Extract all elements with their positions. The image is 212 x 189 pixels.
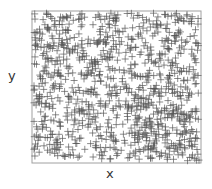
scatter-plot <box>0 0 212 189</box>
y-axis-label: y <box>8 68 16 83</box>
data-points <box>31 10 203 165</box>
x-axis-label: x <box>106 166 114 181</box>
